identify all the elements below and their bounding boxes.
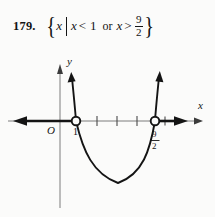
left-condition-value: 1 — [90, 18, 97, 34]
fraction-numerator: 9 — [135, 14, 143, 25]
right-branch-arrowhead — [155, 71, 163, 82]
set-builder-expression: { x x < 1 or x > 9 2 } — [45, 14, 156, 38]
y-axis-label: y — [66, 55, 72, 67]
set-variable: x — [56, 18, 62, 34]
root-label-one: 1 — [73, 126, 78, 137]
left-branch-arrowhead — [68, 72, 76, 82]
parabola-curve — [68, 71, 164, 183]
open-circle-marker-1 — [72, 117, 81, 126]
less-than-operator: < — [79, 18, 86, 34]
origin-label: O — [47, 124, 55, 136]
open-brace: { — [46, 15, 56, 37]
solution-ray-left — [13, 116, 76, 126]
close-brace: } — [144, 15, 154, 37]
coordinate-plane-svg: y x O 1 9 2 — [0, 50, 215, 217]
left-condition-variable: x — [71, 18, 77, 34]
or-connector: or — [103, 19, 113, 34]
fraction-nine-halves: 9 2 — [135, 14, 143, 38]
root-fraction-denominator: 2 — [152, 141, 157, 151]
fraction-denominator: 2 — [135, 27, 143, 38]
root-fraction-numerator: 9 — [152, 129, 157, 139]
graph-figure: y x O 1 9 2 — [0, 50, 215, 217]
x-axis-label: x — [197, 99, 203, 111]
y-axis — [57, 64, 63, 208]
such-that-bar — [66, 17, 67, 36]
right-condition-variable: x — [117, 18, 123, 34]
open-circle-marker-nine-halves — [151, 117, 160, 126]
problem-number: 179. — [13, 19, 36, 34]
greater-than-operator: > — [124, 18, 131, 34]
problem-statement: 179. { x x < 1 or x > 9 2 } — [0, 0, 215, 52]
